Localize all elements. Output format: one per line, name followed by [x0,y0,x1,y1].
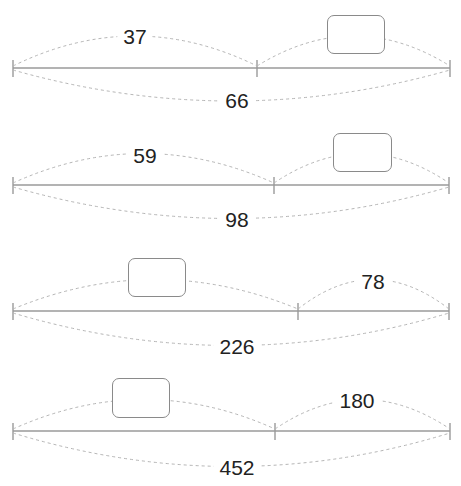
total-label: 98 [219,209,254,230]
part-label-right: 180 [333,390,380,411]
part-label-left: 37 [117,26,152,47]
answer-box-right[interactable] [327,15,385,54]
part-label-left: 59 [127,145,162,166]
answer-box-left[interactable] [112,378,170,418]
total-label: 452 [213,457,260,478]
answer-box-left[interactable] [128,258,186,297]
answer-box-right[interactable] [333,133,392,172]
total-label: 66 [219,90,254,111]
total-label: 226 [213,336,260,357]
bar-model-diagram [0,0,461,486]
part-label-right: 78 [355,271,390,292]
